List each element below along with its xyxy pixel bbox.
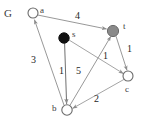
node-label-s: s [72, 30, 76, 39]
node-a[interactable] [28, 8, 38, 18]
edge-weight-c-b: 2 [94, 94, 99, 104]
graph-name-label: G [4, 8, 12, 19]
node-label-a: a [40, 6, 44, 15]
edge-weight-b-a: 3 [31, 55, 36, 65]
edge-weight-s-c: 1 [103, 51, 108, 61]
edge-t-c [116, 36, 127, 70]
node-label-t: t [123, 22, 126, 31]
graph-figure: G a s t c b 4 3 1 5 1 1 2 [0, 0, 144, 127]
node-label-c: c [125, 85, 129, 94]
edge-weight-b-t: 5 [76, 66, 81, 76]
node-b[interactable] [62, 105, 72, 115]
edge-weight-t-c: 1 [127, 44, 132, 54]
edge-s-b [65, 43, 67, 104]
graph-canvas [0, 0, 144, 127]
edge-a-t [38, 15, 107, 29]
node-c[interactable] [123, 71, 133, 81]
node-t[interactable] [107, 25, 118, 36]
node-label-b: b [52, 104, 57, 113]
node-s[interactable] [59, 33, 69, 43]
edge-weight-s-b: 1 [59, 66, 64, 76]
edge-b-a [34, 20, 64, 106]
edge-weight-a-t: 4 [75, 11, 80, 21]
